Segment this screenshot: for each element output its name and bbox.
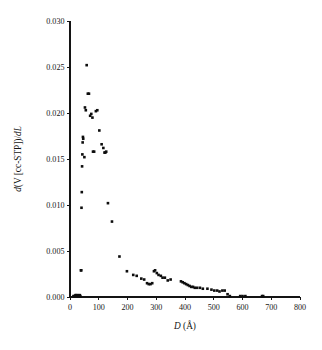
data-point — [135, 275, 138, 278]
x-tick-label: 500 — [208, 303, 220, 312]
x-tick-label: 700 — [265, 303, 277, 312]
data-point — [196, 287, 199, 290]
x-tick-label: 300 — [150, 303, 162, 312]
y-axis-group: 0.0000.0050.0100.0150.0200.0250.030 — [46, 17, 70, 302]
data-point — [223, 289, 226, 292]
data-point — [105, 150, 108, 153]
data-point — [85, 64, 88, 67]
plot-canvas: 0.0000.0050.0100.0150.0200.0250.030 0100… — [0, 0, 322, 350]
x-tick-label: 400 — [179, 303, 191, 312]
data-point — [262, 295, 265, 298]
y-tick-label: 0.000 — [46, 293, 64, 302]
data-point — [229, 295, 232, 298]
data-point — [80, 191, 83, 194]
data-point — [81, 153, 84, 156]
data-point — [132, 274, 135, 277]
data-point — [221, 289, 224, 292]
x-tick-group: 0100200300400500600700800 — [68, 297, 306, 312]
data-point — [216, 289, 219, 292]
y-tick-label: 0.025 — [46, 63, 64, 72]
data-point — [164, 276, 167, 279]
data-point — [157, 274, 160, 277]
data-point — [90, 113, 93, 116]
x-tick-label: 100 — [93, 303, 105, 312]
data-point — [100, 143, 103, 146]
data-point — [79, 295, 82, 298]
x-tick-label: 0 — [68, 303, 72, 312]
y-tick-label: 0.005 — [46, 247, 64, 256]
data-point — [210, 288, 213, 291]
data-point — [166, 279, 169, 282]
data-point — [83, 156, 86, 159]
data-point — [244, 295, 247, 298]
data-point — [140, 277, 143, 280]
y-tick-group: 0.0000.0050.0100.0150.0200.0250.030 — [46, 17, 70, 302]
data-point — [239, 295, 242, 298]
data-point — [84, 106, 87, 109]
data-point — [241, 295, 244, 298]
x-axis-group: 0100200300400500600700800 — [68, 297, 306, 312]
data-point — [202, 287, 205, 290]
data-point — [199, 287, 202, 290]
data-point — [80, 206, 83, 209]
y-tick-label: 0.010 — [46, 201, 64, 210]
data-point — [85, 109, 88, 112]
data-point — [111, 220, 114, 223]
data-point — [81, 141, 84, 144]
data-point — [151, 282, 154, 285]
x-tick-label: 200 — [121, 303, 133, 312]
data-point — [218, 290, 221, 293]
data-point — [96, 109, 99, 112]
data-point — [118, 255, 121, 258]
y-tick-label: 0.030 — [46, 17, 64, 26]
data-point — [206, 287, 209, 290]
y-axis-title: d(V [cc-STP])/dL — [13, 126, 24, 192]
data-point — [169, 278, 172, 281]
data-point — [93, 150, 96, 153]
x-tick-label: 600 — [236, 303, 248, 312]
data-point — [98, 129, 101, 132]
data-point — [107, 202, 110, 205]
data-point — [82, 137, 85, 140]
x-tick-label: 800 — [294, 303, 306, 312]
data-point — [126, 270, 129, 273]
data-point — [91, 116, 94, 119]
x-axis-title: D (Å) — [173, 320, 196, 332]
data-point — [226, 293, 229, 296]
data-point — [81, 165, 84, 168]
data-point — [80, 269, 83, 272]
data-point — [161, 276, 164, 279]
data-point — [154, 269, 157, 272]
data-point — [102, 147, 105, 150]
y-tick-label: 0.020 — [46, 109, 64, 118]
scatter-chart-figure: 0.0000.0050.0100.0150.0200.0250.030 0100… — [0, 0, 322, 350]
data-point — [193, 287, 196, 290]
data-point — [213, 289, 216, 292]
data-points-group — [72, 64, 264, 298]
y-tick-label: 0.015 — [46, 155, 64, 164]
data-point — [88, 92, 91, 95]
data-point — [143, 278, 146, 281]
